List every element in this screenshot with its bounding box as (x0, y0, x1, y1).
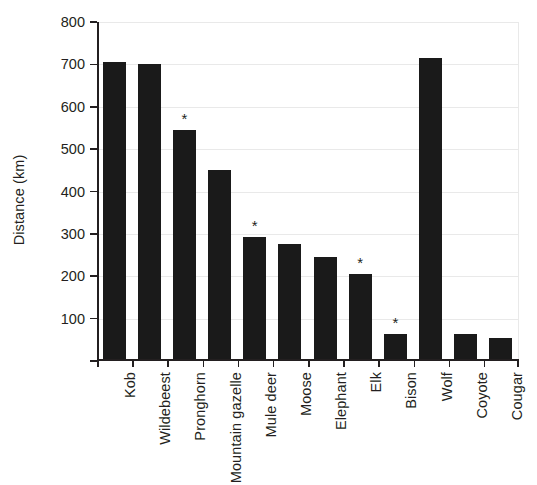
bar[interactable] (419, 58, 442, 361)
y-axis-tick-label: 400 (43, 184, 85, 200)
y-axis-tick (90, 106, 97, 108)
bar[interactable] (314, 257, 337, 361)
x-axis-label: Mule deer (246, 368, 264, 485)
x-axis-label: Wolf (422, 368, 440, 485)
bar[interactable] (454, 334, 477, 361)
x-axis-label: Wildebeest (140, 368, 158, 485)
y-axis-line (97, 22, 99, 361)
y-axis-tick (90, 191, 97, 193)
bar-annotation-asterisk: * (349, 255, 372, 270)
bar-chart-figure: Distance (km) 100200300400500600700800 *… (0, 0, 537, 485)
x-axis-tick (517, 361, 519, 367)
bar[interactable] (278, 244, 301, 361)
bar[interactable] (173, 130, 196, 361)
x-axis-label: Mountain gazelle (211, 368, 229, 485)
bar-column[interactable]: * (243, 22, 266, 361)
bar-annotation-asterisk: * (173, 111, 196, 126)
x-axis-tick (273, 361, 275, 367)
x-axis-label: Moose (281, 368, 299, 485)
bar-column[interactable] (138, 22, 161, 361)
x-axis-tick (167, 361, 169, 367)
y-axis-tick (90, 21, 97, 23)
bar-column[interactable] (489, 22, 512, 361)
x-axis-label-text: Mule deer (263, 372, 279, 437)
bar[interactable] (384, 334, 407, 361)
x-axis-label-text: Coyote (474, 372, 490, 419)
bar-column[interactable] (208, 22, 231, 361)
y-axis-tick-label: 500 (43, 141, 85, 157)
x-axis-tick (203, 361, 205, 367)
x-axis-tick (132, 361, 134, 367)
x-axis-label-text: Pronghorn (192, 372, 208, 441)
x-axis-label: Elk (351, 368, 369, 485)
bar[interactable] (489, 338, 512, 361)
x-axis-tick (414, 361, 416, 367)
y-axis-tick (90, 64, 97, 66)
x-axis-label: Cougar (492, 368, 510, 485)
x-axis-label-text: Moose (298, 372, 314, 416)
bar-annotation-asterisk: * (243, 218, 266, 233)
plot-area: 100200300400500600700800 **** (97, 22, 519, 361)
y-axis-tick-label: 700 (43, 56, 85, 72)
bar-column[interactable]: * (349, 22, 372, 361)
x-axis-label: Pronghorn (175, 368, 193, 485)
x-axis-tick (449, 361, 451, 367)
x-axis-labels-group: KobWildebeestPronghornMountain gazelleMu… (97, 368, 519, 485)
y-axis-tick-label: 200 (43, 268, 85, 284)
bar-column[interactable] (103, 22, 126, 361)
x-axis-tick (97, 361, 99, 367)
bar-column[interactable] (454, 22, 477, 361)
x-axis-tick (343, 361, 345, 367)
y-axis-tick-label: 100 (43, 311, 85, 327)
y-axis-tick (90, 360, 97, 362)
x-axis-label-text: Elephant (333, 372, 349, 430)
bar[interactable] (208, 170, 231, 361)
bar-column[interactable] (278, 22, 301, 361)
x-axis-label-text: Cougar (509, 372, 525, 420)
y-axis-tick-label: 300 (43, 226, 85, 242)
x-axis-label: Elephant (316, 368, 334, 485)
y-axis-tick-label: 800 (43, 14, 85, 30)
y-axis-title-text: Distance (km) (11, 155, 27, 246)
x-axis-label-text: Wolf (439, 372, 455, 401)
bar-column[interactable]: * (173, 22, 196, 361)
bar-column[interactable]: * (384, 22, 407, 361)
bar[interactable] (103, 62, 126, 361)
bars-group: **** (97, 22, 519, 361)
y-axis-tick (90, 275, 97, 277)
bar[interactable] (138, 64, 161, 361)
x-axis-label: Kob (105, 368, 123, 485)
x-axis-label: Bison (386, 368, 404, 485)
y-axis-tick-label: 600 (43, 99, 85, 115)
x-axis-tick (308, 361, 310, 367)
y-axis-tick (90, 148, 97, 150)
bar[interactable] (349, 274, 372, 361)
bar-column[interactable] (419, 22, 442, 361)
x-axis-label-text: Kob (122, 372, 138, 398)
x-axis-tick (238, 361, 240, 367)
x-axis-tick (378, 361, 380, 367)
x-axis-label-text: Mountain gazelle (228, 372, 244, 483)
y-axis-tick (90, 318, 97, 320)
y-axis-tick (90, 233, 97, 235)
x-axis-label-text: Wildebeest (157, 372, 173, 445)
y-axis-title: Distance (km) (6, 120, 32, 280)
bar[interactable] (243, 237, 266, 361)
bar-annotation-asterisk: * (384, 315, 407, 330)
x-axis-tick (484, 361, 486, 367)
x-axis-label-text: Bison (403, 372, 419, 409)
bar-column[interactable] (314, 22, 337, 361)
x-axis-label-text: Elk (368, 372, 384, 392)
x-axis-label: Coyote (457, 368, 475, 485)
